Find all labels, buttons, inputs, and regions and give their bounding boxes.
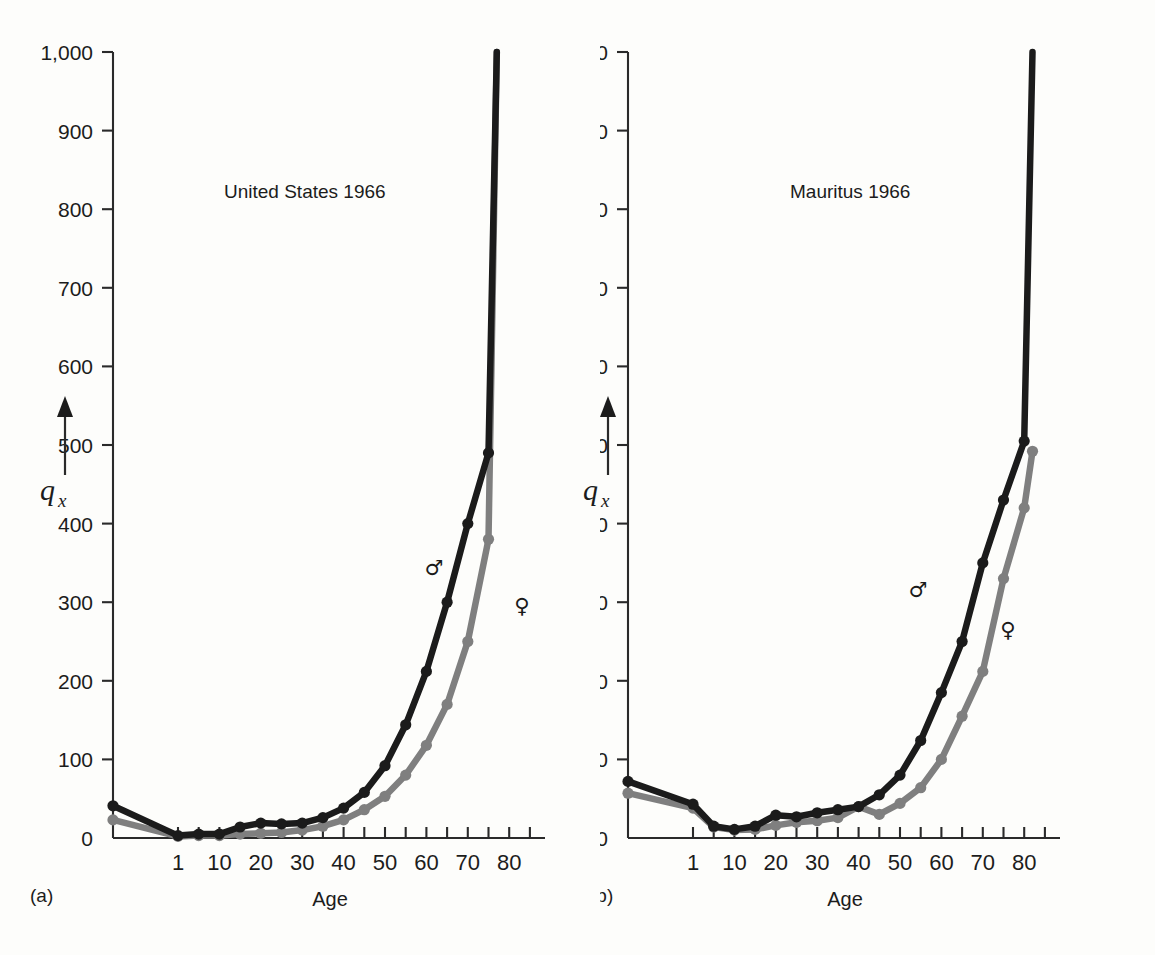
x-tick-label: 70 — [456, 850, 480, 875]
x-tick-label: 40 — [331, 850, 355, 875]
x-tick-label: 10 — [722, 850, 746, 875]
data-point — [214, 829, 225, 840]
data-point — [255, 828, 266, 839]
data-point — [874, 789, 885, 800]
female-series-line-a — [113, 52, 497, 836]
data-point — [421, 740, 432, 751]
qx-label-group-b: q x — [560, 0, 700, 955]
x-tick-label: 80 — [497, 850, 521, 875]
y-tick-label: 200 — [58, 670, 93, 693]
x-tick-labels-b: 11020304050607080 — [687, 850, 1037, 875]
y-axis-label-b: q — [583, 473, 598, 506]
data-point — [107, 800, 118, 811]
data-point — [998, 573, 1009, 584]
data-point — [936, 754, 947, 765]
x-axis-label-b: Age — [827, 888, 863, 910]
chart-title-a: United States 1966 — [224, 181, 386, 202]
data-point — [442, 699, 453, 710]
data-point — [915, 735, 926, 746]
data-point — [359, 787, 370, 798]
x-tick-label: 50 — [888, 850, 912, 875]
data-point — [235, 821, 246, 832]
chart-svg-a: 01002003004005006007008009001,000 110203… — [0, 0, 600, 955]
chart-title-b: Mauritus 1966 — [790, 181, 910, 202]
data-point — [483, 534, 494, 545]
data-point — [297, 818, 308, 829]
y-tick-label: 900 — [58, 120, 93, 143]
data-point — [400, 770, 411, 781]
data-point — [462, 636, 473, 647]
x-tick-label: 60 — [414, 850, 438, 875]
data-point — [936, 687, 947, 698]
y-tick-label: 1,000 — [40, 41, 93, 64]
male-symbol-b: ♂ — [909, 578, 928, 602]
data-point — [977, 666, 988, 677]
data-point — [750, 821, 761, 832]
data-point — [442, 597, 453, 608]
data-point — [832, 804, 843, 815]
y-tick-label: 800 — [58, 198, 93, 221]
data-point — [977, 557, 988, 568]
data-point — [107, 814, 118, 825]
x-tick-labels-a: 11020304050607080 — [172, 850, 522, 875]
data-point — [1019, 436, 1030, 447]
data-point — [276, 818, 287, 829]
data-point — [193, 829, 204, 840]
data-point — [770, 820, 781, 831]
y-tick-label: 500 — [58, 434, 93, 457]
y-axis-sublabel-a: x — [57, 490, 67, 511]
y-axis-sublabel-b: x — [600, 490, 610, 511]
data-point — [708, 821, 719, 832]
data-point — [483, 447, 494, 458]
x-tick-label: 50 — [373, 850, 397, 875]
data-point — [421, 666, 432, 677]
data-point — [1027, 446, 1038, 457]
data-point — [770, 810, 781, 821]
x-tick-label: 1 — [172, 850, 184, 875]
female-symbol-b: ♀ — [1000, 618, 1015, 642]
data-point — [894, 770, 905, 781]
y-tick-label: 100 — [58, 748, 93, 771]
x-tick-label: 60 — [929, 850, 953, 875]
y-tick-label: 0 — [81, 827, 93, 850]
x-tick-label: 30 — [805, 850, 829, 875]
data-point — [729, 824, 740, 835]
x-axis-label-a: Age — [312, 888, 348, 910]
y-tick-group-a — [102, 52, 113, 759]
data-point — [462, 518, 473, 529]
data-point — [255, 818, 266, 829]
data-point — [894, 798, 905, 809]
data-point — [791, 811, 802, 822]
x-tick-label: 20 — [249, 850, 273, 875]
x-tick-label: 80 — [1012, 850, 1036, 875]
y-axis-label-a: q — [40, 473, 55, 506]
data-point — [338, 814, 349, 825]
data-point — [957, 711, 968, 722]
data-point — [400, 719, 411, 730]
data-point — [998, 494, 1009, 505]
y-tick-label: 700 — [58, 277, 93, 300]
data-point — [172, 830, 183, 841]
y-tick-label: 300 — [58, 591, 93, 614]
data-point — [874, 809, 885, 820]
data-point — [1019, 502, 1030, 513]
panel-tag-a: (a) — [30, 885, 53, 906]
data-point — [853, 801, 864, 812]
x-tick-label: 70 — [971, 850, 995, 875]
y-tick-labels-a: 01002003004005006007008009001,000 — [40, 41, 93, 850]
data-point — [379, 760, 390, 771]
female-symbol-a: ♀ — [514, 594, 529, 618]
data-point — [317, 812, 328, 823]
chart-panel-united-states: 01002003004005006007008009001,000 110203… — [0, 0, 600, 955]
data-point — [915, 782, 926, 793]
male-symbol-a: ♂ — [425, 556, 444, 580]
y-tick-label: 600 — [58, 355, 93, 378]
x-tick-label: 10 — [207, 850, 231, 875]
x-tick-label: 20 — [764, 850, 788, 875]
data-point — [957, 636, 968, 647]
data-point — [379, 791, 390, 802]
x-tick-label: 40 — [846, 850, 870, 875]
y-axis-arrow-b-shaft — [600, 396, 616, 475]
data-point — [812, 807, 823, 818]
y-tick-label: 400 — [58, 513, 93, 536]
